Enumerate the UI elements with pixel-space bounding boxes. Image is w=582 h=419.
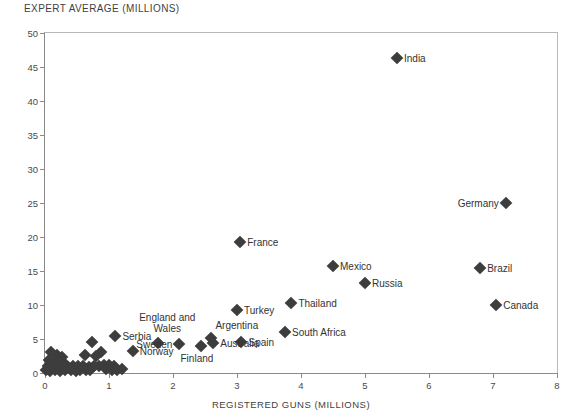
x-axis-tick-label: 1	[106, 380, 111, 391]
x-axis-title: REGISTERED GUNS (MILLIONS)	[0, 399, 582, 410]
y-axis-tick-mark	[40, 169, 45, 170]
data-point[interactable]	[231, 303, 244, 316]
y-axis-tick-mark	[40, 271, 45, 272]
x-axis-tick-mark	[557, 373, 558, 378]
scatter-chart: EXPERT AVERAGE (MILLIONS) 05101520253035…	[0, 0, 582, 419]
x-axis-tick-label: 4	[298, 380, 303, 391]
x-axis-tick-label: 7	[490, 380, 495, 391]
x-axis-tick-mark	[173, 373, 174, 378]
data-point[interactable]	[109, 329, 122, 342]
data-point[interactable]	[285, 297, 298, 310]
x-axis-tick-label: 3	[234, 380, 239, 391]
data-point[interactable]	[499, 197, 512, 210]
x-axis-tick-mark	[493, 373, 494, 378]
x-axis-tick-label: 6	[426, 380, 431, 391]
data-point-label: Turkey	[244, 304, 274, 315]
y-axis-tick-mark	[40, 305, 45, 306]
y-axis-tick-mark	[40, 203, 45, 204]
y-axis-tick-mark	[40, 339, 45, 340]
x-axis-tick-label: 5	[362, 380, 367, 391]
data-point-label: Serbia	[122, 330, 151, 341]
y-axis-tick-mark	[40, 237, 45, 238]
data-point[interactable]	[359, 277, 372, 290]
y-axis-tick-mark	[40, 101, 45, 102]
data-point-label: Norway	[140, 346, 174, 357]
data-point[interactable]	[194, 339, 207, 352]
data-point[interactable]	[78, 348, 91, 361]
data-point-label: France	[247, 237, 278, 248]
data-point-label: Finland	[181, 352, 214, 363]
x-axis-tick-mark	[301, 373, 302, 378]
data-point-label: Canada	[503, 300, 538, 311]
data-point[interactable]	[173, 337, 186, 350]
y-axis-tick-mark	[40, 33, 45, 34]
data-point-label: Thailand	[298, 297, 336, 308]
data-point[interactable]	[279, 325, 292, 338]
y-axis-tick-mark	[40, 135, 45, 136]
data-point[interactable]	[85, 336, 98, 349]
data-point-label: Mexico	[340, 261, 372, 272]
x-axis-tick-mark	[237, 373, 238, 378]
plot-area: 05101520253035404550012345678IndiaGerman…	[44, 32, 558, 374]
data-point-label: Germany	[458, 198, 499, 209]
x-axis-tick-mark	[365, 373, 366, 378]
data-point-label: Brazil	[487, 263, 512, 274]
x-axis-tick-label: 8	[554, 380, 559, 391]
data-point[interactable]	[327, 260, 340, 273]
data-point-label: India	[404, 53, 426, 64]
x-axis-tick-mark	[429, 373, 430, 378]
data-point-label: South Africa	[292, 326, 346, 337]
data-point[interactable]	[391, 52, 404, 65]
data-point-label: Australia	[220, 338, 259, 349]
x-axis-tick-label: 0	[42, 380, 47, 391]
data-point[interactable]	[234, 236, 247, 249]
chart-title: EXPERT AVERAGE (MILLIONS)	[24, 3, 180, 14]
y-axis-tick-mark	[40, 67, 45, 68]
data-point[interactable]	[474, 262, 487, 275]
x-axis-tick-label: 2	[170, 380, 175, 391]
data-point[interactable]	[490, 299, 503, 312]
data-point-label: Argentina	[215, 319, 258, 330]
data-point-label: Russia	[372, 278, 403, 289]
